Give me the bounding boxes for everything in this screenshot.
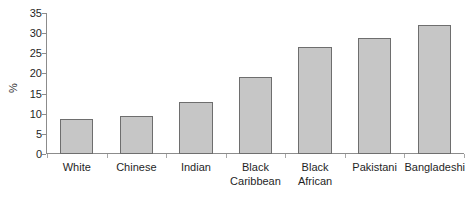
bar — [418, 25, 451, 154]
x-axis-tick-mark — [107, 154, 108, 158]
x-axis-tick-mark — [345, 154, 346, 158]
bar-chart-figure: % 35302520151050 WhiteChineseIndianBlack… — [0, 0, 470, 199]
bar — [298, 47, 331, 154]
x-axis-tick-mark — [166, 154, 167, 158]
category-label-line: White — [47, 160, 107, 174]
x-axis-tick-mark — [404, 154, 405, 158]
category-label-line: African — [285, 174, 345, 188]
category-label-line: Caribbean — [226, 174, 286, 188]
x-axis-category-label: Bangladeshi — [404, 160, 464, 174]
x-axis-tick-mark — [226, 154, 227, 158]
y-axis-tick-mark — [42, 73, 46, 74]
bar — [358, 38, 391, 154]
category-label-line: Bangladeshi — [404, 160, 464, 174]
x-axis-category-label: Indian — [166, 160, 226, 174]
category-label-line: Black — [285, 160, 345, 174]
category-label-line: Indian — [166, 160, 226, 174]
y-axis-tick-labels: 35302520151050 — [20, 8, 42, 154]
x-axis-tick-mark — [464, 154, 465, 158]
category-label-line: Black — [226, 160, 286, 174]
y-axis-tick-label: 15 — [20, 88, 42, 99]
y-axis-tick-label: 35 — [20, 8, 42, 19]
plot-area — [47, 13, 464, 154]
y-axis-tick-mark — [42, 134, 46, 135]
bar — [239, 77, 272, 154]
category-label-line: Pakistani — [345, 160, 405, 174]
bar — [120, 116, 153, 154]
category-label-line: Chinese — [107, 160, 167, 174]
x-axis-tick-mark — [285, 154, 286, 158]
y-axis-tick-mark — [42, 94, 46, 95]
x-axis-category-labels: WhiteChineseIndianBlackCaribbeanBlackAfr… — [47, 160, 464, 198]
bar — [60, 119, 93, 154]
y-axis-tick-mark — [42, 33, 46, 34]
x-axis-category-label: White — [47, 160, 107, 174]
y-axis-tick-mark — [42, 154, 46, 155]
x-axis-category-label: Chinese — [107, 160, 167, 174]
y-axis-tick-label: 20 — [20, 68, 42, 79]
y-axis-tick-label: 10 — [20, 108, 42, 119]
bar — [179, 102, 212, 154]
x-axis-category-label: BlackAfrican — [285, 160, 345, 188]
y-axis-tick-label: 30 — [20, 28, 42, 39]
y-axis-tick-label: 5 — [20, 128, 42, 139]
y-axis-tick-label: 25 — [20, 48, 42, 59]
x-axis-category-label: Pakistani — [345, 160, 405, 174]
y-axis-tick-mark — [42, 53, 46, 54]
x-axis-tick-mark — [47, 154, 48, 158]
y-axis-tick-label: 0 — [20, 149, 42, 160]
y-axis-tick-mark — [42, 13, 46, 14]
x-axis-category-label: BlackCaribbean — [226, 160, 286, 188]
y-axis-tick-mark — [42, 114, 46, 115]
